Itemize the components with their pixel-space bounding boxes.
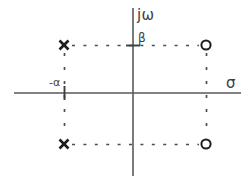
zero-lower-right — [201, 139, 210, 148]
imaginary-axis-label: jω — [137, 6, 154, 24]
real-axis-label: σ — [226, 74, 236, 92]
zero-upper-right — [201, 40, 210, 49]
alpha-tick-label: -α — [49, 76, 60, 89]
pole-zero-plot: jω σ β -α — [0, 0, 248, 184]
beta-tick-label: β — [138, 31, 146, 45]
pole-upper-left — [60, 41, 69, 50]
pole-lower-left — [60, 140, 69, 149]
plot-canvas — [0, 0, 248, 184]
